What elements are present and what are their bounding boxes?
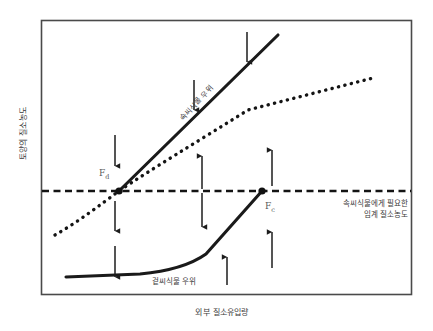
- plot-frame: [42, 21, 412, 295]
- threshold-note: 속씨식물에게 필요한 임계 질소농도: [322, 199, 408, 221]
- x-axis-label: 외부 질소유입량: [167, 306, 277, 317]
- threshold-note-line1: 속씨식물에게 필요한: [343, 199, 408, 208]
- gymnosperm-region-label: 겉씨식물 우위: [152, 277, 196, 288]
- fc-marker: [258, 187, 265, 194]
- fd-marker: [115, 187, 122, 194]
- y-axis-label: 토양의 질소농도: [17, 94, 28, 174]
- fc-annotation: Fc: [265, 201, 275, 214]
- threshold-note-line2: 임계 질소농도: [364, 210, 408, 219]
- chart-figure: Fd Fc 속씨식물에게 필요한 임계 질소농도 속씨식물 우위 겉씨식물 우위…: [0, 0, 433, 331]
- fd-annotation: Fd: [99, 168, 109, 181]
- chart-canvas: [0, 0, 433, 331]
